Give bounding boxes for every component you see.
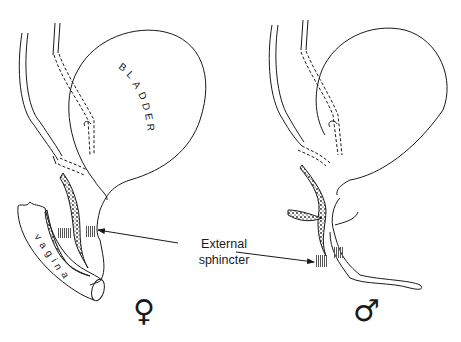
male-sphincter-right bbox=[334, 247, 344, 258]
callout-arrow-female bbox=[98, 230, 178, 243]
male-panel bbox=[269, 20, 447, 289]
female-panel bbox=[18, 23, 206, 302]
bladder-label: B L A D D E R bbox=[117, 61, 157, 132]
svg-text:E: E bbox=[143, 112, 155, 121]
external-sphincter-line2: sphincter bbox=[184, 252, 264, 268]
svg-text:R: R bbox=[145, 123, 157, 131]
female-bladder-outline bbox=[69, 30, 206, 240]
female-urethra bbox=[60, 173, 88, 268]
svg-text:A: A bbox=[130, 79, 143, 91]
svg-text:g: g bbox=[43, 248, 55, 259]
external-sphincter-label: External sphincter bbox=[184, 236, 264, 268]
male-symbol-icon: ♂ bbox=[353, 296, 380, 326]
svg-text:B: B bbox=[117, 61, 129, 74]
urethra-sphincter-diagram: B L A D D E R v a g i n a bbox=[0, 0, 461, 342]
svg-text:a: a bbox=[59, 270, 72, 280]
svg-text:n: n bbox=[52, 262, 64, 272]
svg-text:v: v bbox=[32, 231, 44, 242]
svg-text:a: a bbox=[37, 239, 49, 251]
svg-text:D: D bbox=[136, 90, 149, 101]
external-sphincter-line1: External bbox=[184, 236, 264, 252]
female-symbol-icon: ♀ bbox=[133, 296, 155, 326]
male-sphincter-left bbox=[316, 255, 328, 267]
svg-text:D: D bbox=[140, 102, 152, 112]
female-sphincter-right bbox=[86, 226, 96, 237]
svg-text:L: L bbox=[125, 69, 137, 81]
male-urethra bbox=[300, 165, 326, 256]
female-sphincter-left bbox=[58, 228, 72, 238]
